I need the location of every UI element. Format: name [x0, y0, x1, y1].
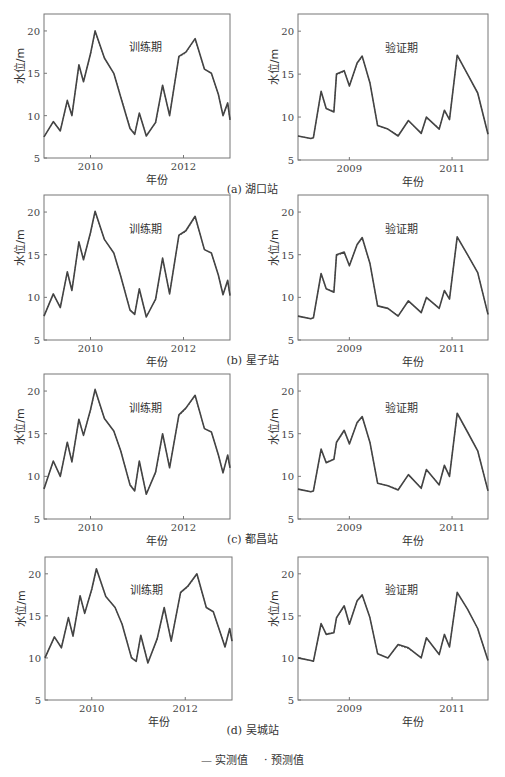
plot-frame: [44, 14, 230, 158]
plot-frame: [44, 374, 230, 519]
y-tick-label: 10: [281, 292, 294, 303]
predicted-line: [298, 414, 488, 492]
y-tick-label: 10: [27, 471, 40, 482]
plot-frame: [298, 14, 488, 160]
y-axis-label: 水位/m: [267, 229, 281, 265]
y-tick-label: 5: [34, 514, 40, 525]
y-tick-label: 20: [27, 386, 40, 397]
plot-frame: [298, 374, 488, 519]
y-tick-label: 5: [288, 695, 294, 706]
observed-line: [298, 55, 488, 138]
x-tick-label: 2011: [439, 703, 464, 714]
chart-svg: 510152020092011年份水位/m验证期: [250, 190, 505, 370]
chart-svg: 510152020102012年份水位/m训练期: [0, 0, 250, 185]
x-tick-label: 2009: [337, 163, 362, 174]
period-label: 验证期: [385, 401, 418, 415]
y-tick-label: 10: [27, 292, 40, 303]
y-tick-label: 5: [288, 335, 294, 346]
x-tick-label: 2011: [439, 163, 464, 174]
y-tick-label: 5: [35, 695, 41, 706]
observed-line: [298, 592, 488, 661]
plot-frame: [44, 195, 230, 340]
y-tick-label: 20: [281, 207, 294, 218]
y-tick-label: 20: [281, 386, 294, 397]
y-axis-label: 水位/m: [267, 408, 281, 444]
x-tick-label: 2010: [78, 161, 103, 172]
y-tick-label: 10: [27, 111, 40, 122]
predicted-line: [298, 593, 488, 661]
legend-observed: — 实测值: [201, 754, 249, 767]
plot-frame: [45, 557, 232, 700]
y-tick-label: 5: [288, 514, 294, 525]
y-axis-label: 水位/m: [267, 49, 281, 85]
period-label: 训练期: [129, 222, 162, 236]
period-label: 验证期: [385, 41, 418, 55]
observed-line: [298, 413, 488, 492]
period-label: 验证期: [385, 222, 418, 236]
y-tick-label: 10: [28, 653, 41, 664]
chart-svg: 510152020102012年份水位/m训练期: [0, 190, 250, 370]
legend: — 实测值 · 预测值: [0, 751, 505, 767]
predicted-line: [298, 56, 488, 138]
y-tick-label: 15: [27, 429, 40, 440]
y-tick-label: 20: [27, 26, 40, 37]
y-tick-label: 15: [281, 611, 294, 622]
y-tick-label: 15: [27, 250, 40, 261]
y-axis-label: 水位/m: [14, 590, 28, 626]
caption-b: (b) 星子站: [0, 351, 505, 367]
y-tick-label: 15: [281, 429, 294, 440]
period-label: 训练期: [130, 583, 163, 597]
y-tick-label: 10: [281, 471, 294, 482]
period-label: 验证期: [385, 583, 418, 597]
y-tick-label: 20: [281, 26, 294, 37]
predicted-line: [298, 238, 488, 319]
y-tick-label: 5: [34, 335, 40, 346]
y-tick-label: 10: [281, 653, 294, 664]
y-tick-label: 15: [28, 611, 41, 622]
y-tick-label: 20: [27, 207, 40, 218]
plot-frame: [298, 195, 488, 340]
y-tick-label: 5: [34, 153, 40, 164]
y-axis-label: 水位/m: [13, 229, 27, 265]
period-label: 训练期: [129, 401, 162, 415]
y-tick-label: 20: [28, 569, 41, 580]
y-axis-label: 水位/m: [13, 48, 27, 84]
legend-predicted: · 预测值: [264, 754, 304, 767]
period-label: 训练期: [129, 40, 162, 54]
x-tick-label: 2012: [171, 161, 196, 172]
y-tick-label: 15: [281, 69, 294, 80]
chart-svg: 510152020092011年份水位/m验证期: [250, 0, 505, 185]
x-tick-label: 2009: [337, 703, 362, 714]
plot-frame: [298, 557, 488, 700]
x-tick-label: 2010: [79, 703, 104, 714]
y-tick-label: 5: [288, 155, 294, 166]
y-tick-label: 20: [281, 569, 294, 580]
caption-c: (c) 都昌站: [0, 530, 505, 546]
x-tick-label: 2012: [173, 703, 198, 714]
y-axis-label: 水位/m: [267, 590, 281, 626]
y-axis-label: 水位/m: [13, 408, 27, 444]
chart-svg: 510152020092011年份水位/m验证期: [250, 555, 505, 745]
y-tick-label: 15: [281, 250, 294, 261]
caption-d: (d) 吴城站: [0, 721, 505, 737]
y-tick-label: 15: [27, 68, 40, 79]
chart-svg: 510152020102012年份水位/m训练期: [0, 555, 250, 745]
observed-line: [298, 237, 488, 319]
observed-line: [45, 569, 232, 663]
y-tick-label: 10: [281, 112, 294, 123]
